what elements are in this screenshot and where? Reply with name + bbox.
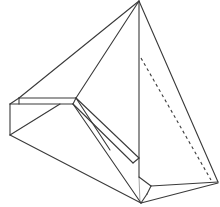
edge-vertical-lower xyxy=(139,177,140,203)
edge-strip-end xyxy=(133,158,139,163)
outer-edges xyxy=(19,1,218,203)
diagram-canvas xyxy=(0,0,220,207)
hidden-edge-dashed xyxy=(141,58,211,180)
solid-figure xyxy=(0,0,220,207)
edge-box-notch xyxy=(73,98,76,104)
edge-strip-top xyxy=(76,98,139,158)
bottom-right xyxy=(139,177,218,203)
edge-notch-down xyxy=(147,186,151,194)
strip xyxy=(73,98,141,203)
edge-box-corner xyxy=(10,98,19,104)
edge-box-diagonal xyxy=(10,104,60,135)
edge-notch-bottom xyxy=(73,104,141,203)
edge-apex-right xyxy=(139,1,218,182)
edge-apex-left xyxy=(19,1,139,98)
edge-bottom-left xyxy=(10,135,141,203)
edge-apex-notch xyxy=(76,1,139,98)
left-box xyxy=(10,98,141,203)
edge-notch-inner xyxy=(76,98,110,150)
edge-vertical-notch-a xyxy=(139,177,151,186)
edge-strip-bottom xyxy=(73,104,133,163)
